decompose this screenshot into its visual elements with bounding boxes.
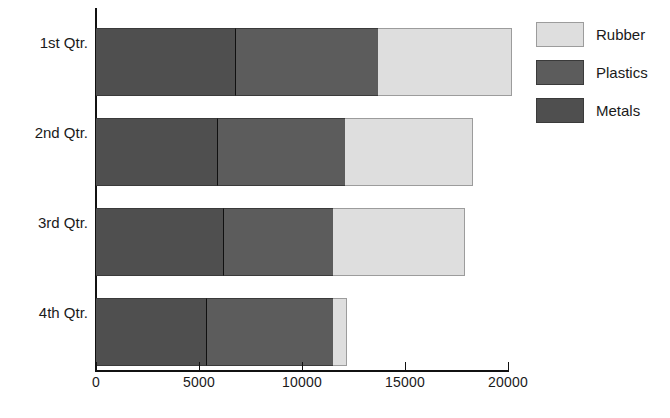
legend-item-metals[interactable]: Metals: [536, 98, 648, 123]
bar-row: [96, 118, 473, 186]
bar-segment-rubber[interactable]: [333, 298, 347, 366]
bar-row: [96, 208, 465, 276]
x-tick-mark: [199, 362, 200, 371]
x-tick-label: 20000: [488, 374, 528, 390]
bar-segment-metals[interactable]: [96, 118, 218, 186]
bar-segment-plastics[interactable]: [236, 28, 378, 96]
x-tick-mark: [508, 362, 509, 371]
x-tick-label: 10000: [282, 374, 322, 390]
bar-row: [96, 28, 512, 96]
y-tick-label-4: 4th Qtr.: [0, 304, 88, 321]
legend-label-metals: Metals: [596, 102, 640, 119]
legend-swatch-metals-icon: [536, 98, 584, 123]
chart-legend: Rubber Plastics Metals: [536, 22, 648, 123]
legend-item-plastics[interactable]: Plastics: [536, 60, 648, 85]
plot-area: [96, 8, 508, 372]
x-tick-label: 5000: [183, 374, 215, 390]
stacked-bar-chart: 1st Qtr. 2nd Qtr. 3rd Qtr. 4th Qtr. 0500…: [0, 0, 670, 418]
x-tick-mark: [96, 362, 97, 371]
y-tick-label-2: 2nd Qtr.: [0, 124, 88, 141]
x-tick-label: 15000: [385, 374, 425, 390]
legend-label-plastics: Plastics: [596, 64, 648, 81]
x-tick-mark: [302, 362, 303, 371]
bar-segment-rubber[interactable]: [333, 208, 465, 276]
legend-swatch-plastics-icon: [536, 60, 584, 85]
bar-segment-plastics[interactable]: [218, 118, 346, 186]
bar-segment-rubber[interactable]: [378, 28, 512, 96]
bar-segment-plastics[interactable]: [224, 208, 333, 276]
bar-segment-metals[interactable]: [96, 28, 236, 96]
legend-swatch-rubber-icon: [536, 22, 584, 47]
x-tick-mark: [405, 362, 406, 371]
legend-item-rubber[interactable]: Rubber: [536, 22, 648, 47]
legend-label-rubber: Rubber: [596, 26, 645, 43]
bar-segment-rubber[interactable]: [345, 118, 473, 186]
bar-segment-metals[interactable]: [96, 208, 224, 276]
y-tick-label-1: 1st Qtr.: [0, 34, 88, 51]
bar-segment-plastics[interactable]: [207, 298, 333, 366]
bar-segment-metals[interactable]: [96, 298, 207, 366]
x-tick-label: 0: [92, 374, 100, 390]
y-tick-label-3: 3rd Qtr.: [0, 214, 88, 231]
bar-row: [96, 298, 347, 366]
